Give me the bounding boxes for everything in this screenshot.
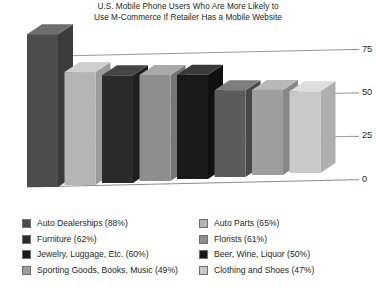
legend-swatch	[199, 235, 208, 244]
legend-item-label: Beer, Wine, Liquor (50%)	[214, 250, 310, 259]
legend-swatch	[22, 266, 31, 275]
plot-area	[0, 0, 376, 210]
y-axis-tick-label: 75	[362, 44, 372, 54]
legend-item-label: Sporting Goods, Books, Music (49%)	[37, 266, 178, 275]
bar-front-face	[65, 72, 96, 185]
legend-item[interactable]: Florists (61%)	[199, 232, 374, 248]
bar-front-face	[177, 75, 208, 179]
legend-item-label: Auto Parts (65%)	[214, 219, 279, 228]
legend-item[interactable]: Clothing and Shoes (47%)	[199, 263, 374, 279]
legend-swatch	[22, 219, 31, 228]
legend-swatch	[199, 250, 208, 259]
bar	[290, 81, 336, 173]
bar-front-face	[27, 34, 58, 187]
bar-side-face	[321, 81, 336, 173]
legend-item-label: Furniture (62%)	[37, 235, 97, 244]
y-axis-tick-label: 25	[362, 130, 372, 140]
bar-front-face	[252, 90, 283, 175]
legend-column-left: Auto Dealerships (88%)Furniture (62%)Jew…	[22, 216, 202, 278]
legend-swatch	[22, 235, 31, 244]
legend-item-label: Auto Dealerships (88%)	[37, 219, 128, 228]
legend-item[interactable]: Jewelry, Luggage, Etc. (60%)	[22, 247, 202, 263]
legend-item[interactable]: Sporting Goods, Books, Music (49%)	[22, 263, 202, 279]
bar-front-face	[290, 91, 321, 173]
bar-front-face	[140, 75, 171, 181]
legend-swatch	[199, 219, 208, 228]
legend-item[interactable]: Furniture (62%)	[22, 232, 202, 248]
legend-item[interactable]: Auto Parts (65%)	[199, 216, 374, 232]
chart-legend: Auto Dealerships (88%)Furniture (62%)Jew…	[0, 216, 376, 294]
y-axis-tick-label: 0	[362, 174, 367, 184]
bar-front-face	[215, 90, 246, 177]
legend-item[interactable]: Auto Dealerships (88%)	[22, 216, 202, 232]
legend-column-right: Auto Parts (65%)Florists (61%)Beer, Wine…	[199, 216, 374, 278]
axis-tick-marks	[352, 50, 359, 180]
legend-item-label: Clothing and Shoes (47%)	[214, 266, 314, 275]
legend-swatch	[22, 250, 31, 259]
legend-item-label: Jewelry, Luggage, Etc. (60%)	[37, 250, 149, 259]
legend-item-label: Florists (61%)	[214, 235, 267, 244]
chart-container: U.S. Mobile Phone Users Who Are More Lik…	[0, 0, 376, 294]
bar-front-face	[102, 75, 133, 183]
y-axis-tick-label: 50	[362, 87, 372, 97]
gridline	[27, 50, 352, 57]
bar-series	[27, 24, 336, 187]
legend-item[interactable]: Beer, Wine, Liquor (50%)	[199, 247, 374, 263]
legend-swatch	[199, 266, 208, 275]
